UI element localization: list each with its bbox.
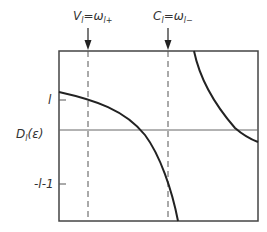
y-axis-label: Dl(ε) [16, 128, 43, 143]
equals-sign: = [164, 9, 174, 23]
tick-label-minus-l-minus-1: -l-1 [34, 178, 54, 190]
tick-label-l: l [48, 94, 51, 106]
omega-symbol: ω [174, 9, 184, 23]
lower-branch-curve [59, 92, 178, 221]
y-axis-symbol: D [16, 127, 25, 141]
equals-sign: = [83, 9, 93, 23]
conduction-arrow-icon [165, 28, 172, 50]
valence-label: Vl=ωl+ [73, 10, 113, 25]
omega-subscript: l+ [104, 16, 113, 25]
omega-subscript: l− [184, 16, 193, 25]
valence-symbol: V [73, 9, 81, 23]
y-axis-argument: (ε) [27, 127, 43, 141]
omega-symbol: ω [94, 9, 104, 23]
upper-branch-curve [194, 51, 258, 142]
conduction-label: Cl=ωl− [153, 10, 193, 25]
diagram-canvas [0, 0, 267, 232]
valence-arrow-icon [85, 28, 92, 50]
plot-frame [59, 51, 258, 221]
